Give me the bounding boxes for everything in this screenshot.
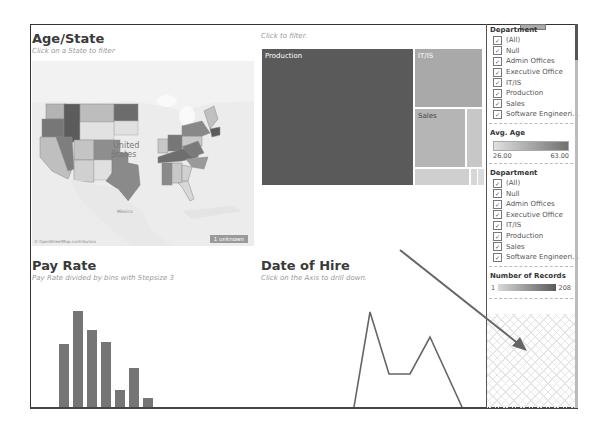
records-title: Number of Records xyxy=(487,270,575,281)
checkbox-checked-icon[interactable]: ✓ xyxy=(493,221,502,230)
checkbox-checked-icon[interactable]: ✓ xyxy=(493,36,502,45)
unknown-badge[interactable]: 1 unknown xyxy=(210,235,248,243)
date-of-hire-line-chart[interactable] xyxy=(256,290,485,407)
filter-checkbox-item[interactable]: ✓(All) xyxy=(487,35,575,46)
age-state-header: Age/State Click on a State to filter xyxy=(32,31,115,56)
checkbox-checked-icon[interactable]: ✓ xyxy=(493,89,502,98)
treemap-cell[interactable] xyxy=(466,108,483,168)
date-of-hire-title: Date of Hire xyxy=(261,258,367,273)
avg-age-range: 26.00 63.00 xyxy=(493,152,569,160)
age-state-map[interactable]: United States Mexico © OpenStreetMap con… xyxy=(32,61,254,246)
treemap-cell[interactable]: Sales xyxy=(414,108,466,168)
filter-item-label: Admin Offices xyxy=(506,57,555,65)
checkbox-checked-icon[interactable]: ✓ xyxy=(493,46,502,55)
filter-item-label: Production xyxy=(506,89,543,97)
divider xyxy=(489,163,573,164)
department-filter2-list: ✓(All)✓Null✓Admin Offices✓Executive Offi… xyxy=(487,178,575,263)
department-filter-list: ✓(All)✓Null✓Admin Offices✓Executive Offi… xyxy=(487,35,575,120)
filter-item-label: Null xyxy=(506,190,520,198)
empty-hatched-area xyxy=(487,314,575,408)
filter-checkbox-item[interactable]: ✓Sales xyxy=(487,99,575,110)
svg-text:United: United xyxy=(113,141,139,150)
filter-checkbox-item[interactable]: ✓Software Engineeri... xyxy=(487,109,575,120)
filter-checkbox-item[interactable]: ✓IT/IS xyxy=(487,220,575,231)
checkbox-checked-icon[interactable]: ✓ xyxy=(493,200,502,209)
checkbox-checked-icon[interactable]: ✓ xyxy=(493,242,502,251)
date-of-hire-subtitle: Click on the Axis to drill down. xyxy=(261,273,367,283)
filter-checkbox-item[interactable]: ✓Executive Office xyxy=(487,67,575,78)
filter-checkbox-item[interactable]: ✓Null xyxy=(487,46,575,57)
filter-item-label: (All) xyxy=(506,179,520,187)
filter-checkbox-item[interactable]: ✓Production xyxy=(487,231,575,242)
divider xyxy=(489,123,573,124)
checkbox-checked-icon[interactable]: ✓ xyxy=(493,110,502,119)
filter-checkbox-item[interactable]: ✓Null xyxy=(487,188,575,199)
treemap-cell[interactable] xyxy=(477,168,485,186)
histogram-bar[interactable] xyxy=(59,344,69,407)
checkbox-checked-icon[interactable]: ✓ xyxy=(493,68,502,77)
divider xyxy=(489,266,573,267)
filter-item-label: IT/IS xyxy=(506,221,521,229)
checkbox-checked-icon[interactable]: ✓ xyxy=(493,232,502,241)
treemap-subtitle: Click to filter. xyxy=(261,31,307,41)
filter-item-label: IT/IS xyxy=(506,79,521,87)
pay-rate-histogram[interactable] xyxy=(31,290,253,407)
filter-side-panel: Department ✓(All)✓Null✓Admin Offices✓Exe… xyxy=(486,24,575,408)
filter-checkbox-item[interactable]: ✓Software Engineeri... xyxy=(487,252,575,263)
checkbox-checked-icon[interactable]: ✓ xyxy=(493,179,502,188)
checkbox-checked-icon[interactable]: ✓ xyxy=(493,253,502,262)
treemap-cell[interactable]: IT/IS xyxy=(414,48,483,108)
records-max: 208 xyxy=(559,284,571,292)
filter-item-label: Executive Office xyxy=(506,68,563,76)
records-size-legend: 1 208 xyxy=(487,281,575,295)
avg-age-color-legend xyxy=(493,141,569,151)
age-state-subtitle: Click on a State to filter xyxy=(32,46,115,56)
treemap-header: Click to filter. xyxy=(261,31,307,41)
treemap-cell[interactable] xyxy=(414,168,470,186)
filter-checkbox-item[interactable]: ✓Admin Offices xyxy=(487,56,575,67)
histogram-bar[interactable] xyxy=(73,311,83,407)
filter-checkbox-item[interactable]: ✓IT/IS xyxy=(487,77,575,88)
filter-item-label: (All) xyxy=(506,36,520,44)
checkbox-checked-icon[interactable]: ✓ xyxy=(493,78,502,87)
avg-age-title: Avg. Age xyxy=(487,127,575,138)
histogram-bar[interactable] xyxy=(143,398,153,407)
histogram-bar[interactable] xyxy=(115,390,125,407)
checkbox-checked-icon[interactable]: ✓ xyxy=(493,99,502,108)
avg-age-max: 63.00 xyxy=(550,152,569,160)
vertical-scrollbar[interactable] xyxy=(575,24,578,408)
avg-age-min: 26.00 xyxy=(493,152,512,160)
pay-rate-header: Pay Rate Pay Rate divided by bins with S… xyxy=(32,258,174,283)
scrollbar-thumb[interactable] xyxy=(575,24,578,60)
filter-item-label: Sales xyxy=(506,100,525,108)
department-treemap[interactable]: ProductionIT/ISSales xyxy=(261,48,483,186)
records-gradient xyxy=(498,284,555,291)
department-filter-title: Department xyxy=(487,24,575,35)
filter-item-label: Production xyxy=(506,232,543,240)
checkbox-checked-icon[interactable]: ✓ xyxy=(493,189,502,198)
histogram-bar[interactable] xyxy=(87,330,97,407)
histogram-bar[interactable] xyxy=(101,342,111,407)
filter-item-label: Software Engineeri... xyxy=(506,253,579,261)
filter-checkbox-item[interactable]: ✓Executive Office xyxy=(487,210,575,221)
filter-checkbox-item[interactable]: ✓Admin Offices xyxy=(487,199,575,210)
filter-item-label: Software Engineeri... xyxy=(506,110,579,118)
filter-checkbox-item[interactable]: ✓Production xyxy=(487,88,575,99)
svg-text:States: States xyxy=(111,150,136,159)
filter-checkbox-item[interactable]: ✓(All) xyxy=(487,178,575,189)
filter-item-label: Executive Office xyxy=(506,211,563,219)
filter-checkbox-item[interactable]: ✓Sales xyxy=(487,241,575,252)
department-filter2-title: Department xyxy=(487,167,575,178)
checkbox-checked-icon[interactable]: ✓ xyxy=(493,57,502,66)
map-attribution[interactable]: © OpenStreetMap contributors xyxy=(34,239,96,244)
map-shapes: United States Mexico xyxy=(32,61,254,246)
svg-text:Mexico: Mexico xyxy=(117,209,133,214)
checkbox-checked-icon[interactable]: ✓ xyxy=(493,210,502,219)
histogram-bar[interactable] xyxy=(129,368,139,407)
divider xyxy=(489,298,573,299)
date-of-hire-header: Date of Hire Click on the Axis to drill … xyxy=(261,258,367,283)
hire-date-line[interactable] xyxy=(354,312,462,407)
pay-rate-title: Pay Rate xyxy=(32,258,174,273)
treemap-cell[interactable]: Production xyxy=(261,48,414,186)
filter-item-label: Sales xyxy=(506,243,525,251)
